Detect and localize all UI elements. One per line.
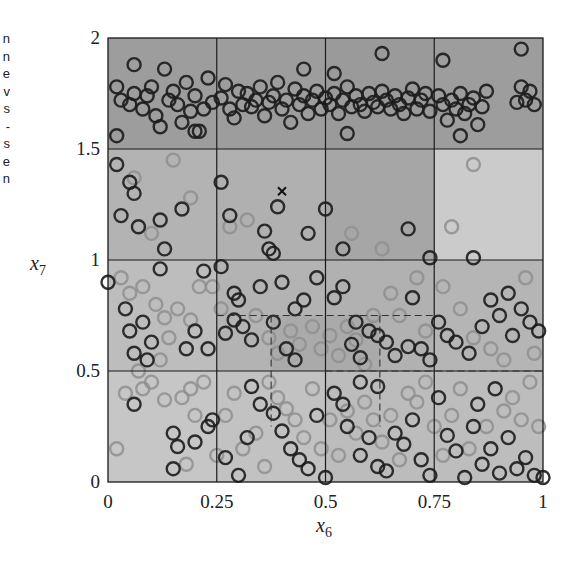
x-tick-label: 1 xyxy=(538,491,548,512)
x-tick-label: 0.25 xyxy=(200,491,233,512)
partition-cell xyxy=(434,149,543,260)
x-tick-label: 0.5 xyxy=(314,491,338,512)
y-tick-label: 1.5 xyxy=(76,138,100,159)
x-axis-label: x6 xyxy=(315,514,332,540)
x-tick-label: 0 xyxy=(103,491,113,512)
x-tick-label: 0.75 xyxy=(418,491,451,512)
y-tick-label: 0.5 xyxy=(76,360,100,381)
y-axis-label: x7 xyxy=(29,252,46,278)
y-tick-label: 2 xyxy=(91,27,101,48)
y-tick-label: 0 xyxy=(91,471,101,492)
scatter-chart: 00.250.50.751 00.511.52 x6 x7 xyxy=(0,0,570,567)
y-axis-ticks: 00.511.52 xyxy=(76,27,100,492)
y-tick-label: 1 xyxy=(91,249,101,270)
x-axis-ticks: 00.250.50.751 xyxy=(103,491,548,512)
